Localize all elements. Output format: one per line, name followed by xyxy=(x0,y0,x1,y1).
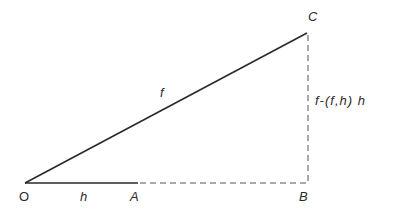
point-label-c: C xyxy=(308,10,317,23)
point-label-a: A xyxy=(130,190,139,203)
segment-label-f-minus-proj: f-(f,h) h xyxy=(315,94,366,107)
segment-label-h: h xyxy=(80,190,87,203)
segment-oc xyxy=(25,33,307,183)
point-label-b: B xyxy=(299,190,308,203)
point-label-o: O xyxy=(19,190,29,203)
segment-label-f: f xyxy=(160,86,164,99)
